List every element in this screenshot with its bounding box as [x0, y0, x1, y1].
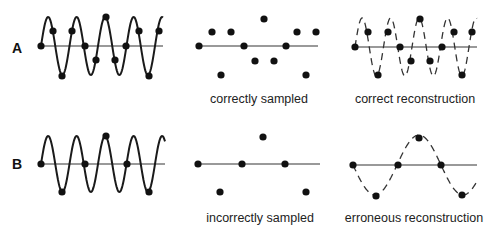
sample-dot — [216, 188, 223, 195]
sample-dot — [437, 161, 444, 168]
sample-dot — [458, 191, 465, 198]
sample-dot — [351, 43, 358, 50]
sample-dot — [58, 72, 65, 79]
sample-dot — [396, 43, 403, 50]
sample-dot — [426, 57, 433, 64]
sample-dot — [416, 15, 423, 22]
sample-dot — [217, 71, 224, 78]
sample-dot — [282, 42, 289, 49]
sample-dot — [438, 43, 445, 50]
row-label-a: A — [12, 40, 22, 56]
sample-dot — [240, 42, 247, 49]
sample-dot — [394, 161, 401, 168]
sample-dot — [302, 71, 309, 78]
sample-dot — [458, 71, 465, 78]
sample-dot — [81, 42, 88, 49]
caption-correctly-sampled: correctly sampled — [210, 92, 308, 106]
sample-dot — [238, 160, 245, 167]
sample-dot — [450, 28, 457, 35]
sample-dot — [111, 56, 118, 63]
caption-erroneous-reconstruction: erroneous reconstruction — [345, 211, 483, 225]
sample-dot — [102, 13, 109, 20]
sample-dot — [302, 188, 309, 195]
sample-dot — [145, 188, 152, 195]
sample-dot — [251, 57, 258, 64]
sample-dot — [194, 160, 201, 167]
sample-dot — [68, 27, 75, 34]
sample-dot — [135, 27, 142, 34]
sample-dot — [468, 28, 475, 35]
sample-dot — [227, 28, 234, 35]
sample-dot — [349, 161, 356, 168]
sample-dot — [58, 188, 65, 195]
sample-dot — [123, 160, 130, 167]
sample-dot — [260, 15, 267, 22]
sample-dot — [281, 160, 288, 167]
aliasing-diagram — [0, 0, 495, 237]
row-b-original-signal — [37, 132, 165, 195]
sample-dot — [37, 42, 44, 49]
sample-dot — [195, 42, 202, 49]
sample-points — [195, 15, 319, 78]
sample-dot — [384, 28, 391, 35]
sample-dot — [407, 57, 414, 64]
row-a-reconstruction — [351, 15, 477, 78]
sample-dot — [374, 71, 381, 78]
sample-dot — [259, 133, 266, 140]
sample-dot — [81, 160, 88, 167]
caption-incorrectly-sampled: incorrectly sampled — [206, 211, 314, 225]
sample-dot — [37, 160, 44, 167]
sample-dot — [312, 28, 319, 35]
sample-dot — [102, 132, 109, 139]
row-b-samples — [194, 133, 320, 195]
sample-dot — [293, 28, 300, 35]
row-b-reconstruction — [349, 134, 477, 199]
sample-dot — [415, 134, 422, 141]
row-a-original-signal — [37, 13, 163, 79]
row-label-b: B — [12, 156, 22, 172]
sample-dot — [155, 27, 162, 34]
sample-dot — [372, 192, 379, 199]
sample-dot — [145, 72, 152, 79]
sample-dot — [270, 57, 277, 64]
caption-correct-reconstruction: correct reconstruction — [355, 92, 475, 106]
sample-dot — [122, 42, 129, 49]
sample-dot — [49, 27, 56, 34]
sample-dot — [364, 28, 371, 35]
sample-dot — [92, 56, 99, 63]
sample-dot — [208, 28, 215, 35]
row-a-samples — [195, 15, 319, 78]
